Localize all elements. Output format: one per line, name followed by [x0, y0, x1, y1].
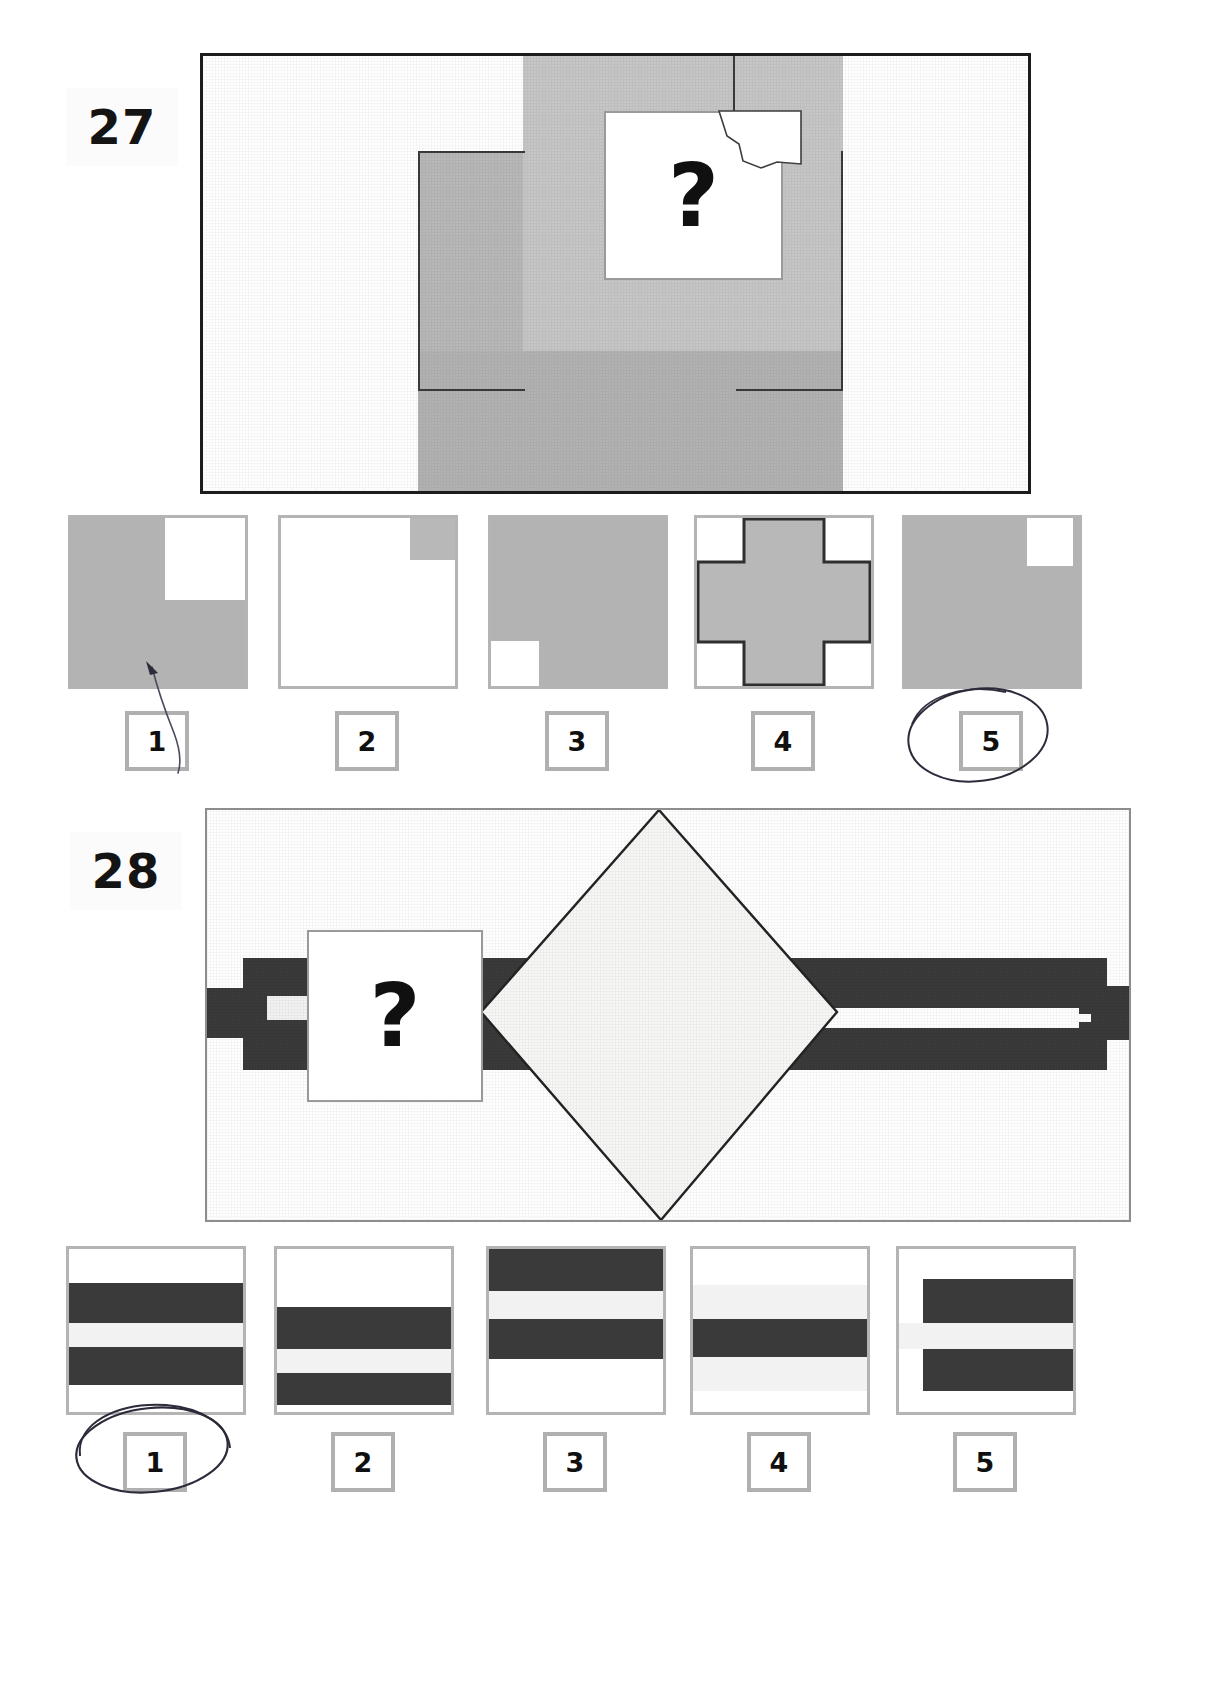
diamond-shape [479, 808, 839, 1222]
option-27-5-figure [902, 515, 1082, 689]
option-28-5-band-4 [923, 1349, 1073, 1391]
option-27-3-label: 3 [568, 726, 587, 757]
option-28-4-band-2 [693, 1285, 867, 1319]
stimulus-figure-28: ? [205, 808, 1131, 1222]
option-27-3-number[interactable]: 3 [545, 711, 609, 771]
cross-overlap-dark-band [418, 351, 843, 491]
option-28-5-figure [896, 1246, 1076, 1415]
option-28-2-band-3 [277, 1349, 451, 1373]
stimulus-figure-27: ? [200, 53, 1031, 494]
cross-outline-left [418, 151, 420, 391]
option-28-5-band-1 [899, 1249, 1073, 1279]
option-28-4-band-5 [693, 1391, 867, 1412]
question-number-28-label: 28 [92, 843, 161, 899]
question-number-27-label: 27 [88, 99, 157, 155]
option-28-1-band-3 [69, 1323, 243, 1347]
option-27-5-white-block [1027, 518, 1073, 566]
cross-outline-bottom-left [418, 389, 525, 391]
option-28-1-label: 1 [146, 1447, 165, 1478]
option-27-2-gray-corner [410, 518, 455, 560]
band-right-edge-block [1091, 986, 1131, 1040]
option-28-3-label: 3 [566, 1447, 585, 1478]
option-28-4-band-3 [693, 1319, 867, 1357]
option-28-3-band-1 [489, 1249, 663, 1291]
option-28-1-band-5 [69, 1385, 243, 1412]
option-28-1-number[interactable]: 1 [123, 1432, 187, 1492]
option-27-1-figure [68, 515, 248, 689]
option-28-1-figure [66, 1246, 246, 1415]
option-28-2-number[interactable]: 2 [331, 1432, 395, 1492]
option-27-3-figure [488, 515, 668, 689]
option-28-5-band-2 [923, 1279, 1073, 1323]
question-number-28: 28 [70, 832, 182, 910]
option-27-4-label: 4 [774, 726, 793, 757]
option-28-3-figure [486, 1246, 666, 1415]
option-27-2-figure [278, 515, 458, 689]
worksheet-page: 27 ? [0, 0, 1229, 1694]
option-28-3-band-3 [489, 1319, 663, 1359]
option-27-2-label: 2 [358, 726, 377, 757]
band-right-light-gap [807, 1008, 1079, 1028]
question-card-28: ? [307, 930, 483, 1102]
question-mark-27: ? [668, 156, 719, 235]
option-28-5-band-5 [899, 1391, 1073, 1412]
option-28-2-band-1 [277, 1249, 451, 1307]
option-27-3-white-block [491, 641, 539, 686]
option-27-2-number[interactable]: 2 [335, 711, 399, 771]
option-27-4-figure [694, 515, 874, 689]
option-28-4-label: 4 [770, 1447, 789, 1478]
option-28-2-figure [274, 1246, 454, 1415]
option-27-1-label: 1 [148, 726, 167, 757]
option-28-4-figure [690, 1246, 870, 1415]
option-27-1-white-quadrant [165, 518, 245, 600]
option-27-5-label: 5 [982, 726, 1001, 757]
option-28-3-band-2 [489, 1291, 663, 1319]
option-28-4-band-1 [693, 1249, 867, 1285]
option-27-4-cross-icon [697, 518, 871, 686]
option-28-5-band-3 [899, 1323, 1073, 1349]
option-27-4-number[interactable]: 4 [751, 711, 815, 771]
question-mark-28: ? [369, 976, 420, 1055]
option-28-5-label: 5 [976, 1447, 995, 1478]
option-28-1-band-2 [69, 1283, 243, 1323]
option-28-1-band-4 [69, 1347, 243, 1385]
option-28-5-number[interactable]: 5 [953, 1432, 1017, 1492]
option-28-2-label: 2 [354, 1447, 373, 1478]
option-28-4-band-4 [693, 1357, 867, 1391]
option-28-3-band-4 [489, 1359, 663, 1412]
cross-outline-bottom-right [736, 389, 843, 391]
option-28-2-band-2 [277, 1307, 451, 1349]
cross-outline-right [841, 151, 843, 391]
option-27-1-number[interactable]: 1 [125, 711, 189, 771]
cross-outline-top-left [418, 151, 525, 153]
option-28-2-band-5 [277, 1405, 451, 1412]
option-27-5-number[interactable]: 5 [959, 711, 1023, 771]
option-28-2-band-4 [277, 1373, 451, 1405]
paper-scrap [717, 106, 803, 174]
option-28-4-number[interactable]: 4 [747, 1432, 811, 1492]
option-28-3-number[interactable]: 3 [543, 1432, 607, 1492]
option-28-1-band-1 [69, 1249, 243, 1283]
question-number-27: 27 [66, 88, 178, 166]
